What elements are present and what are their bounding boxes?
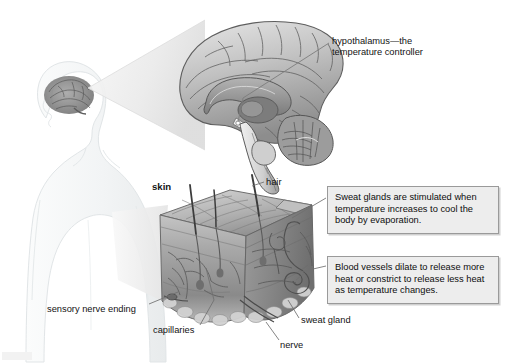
- label-hypothalamus-line2: temperature controller: [332, 47, 423, 57]
- label-nerve: nerve: [280, 340, 303, 351]
- label-sensory-nerve-ending: sensory nerve ending: [47, 304, 136, 315]
- page-artifact: [2, 352, 32, 360]
- callout-blood-vessels-text: Blood vessels dilate to release more hea…: [335, 262, 484, 295]
- label-hypothalamus: hypothalamus—the temperature controller: [332, 36, 472, 58]
- large-brain-illustration: [180, 22, 343, 194]
- skin-block-illustration: [160, 175, 314, 326]
- callout-sweat-glands: Sweat glands are stimulated when tempera…: [327, 186, 499, 234]
- label-capillaries: capillaries: [153, 325, 194, 336]
- callout-blood-vessels: Blood vessels dilate to release more hea…: [327, 256, 499, 304]
- leader-line-nerve: [266, 322, 279, 340]
- label-hair: hair: [266, 177, 282, 188]
- anatomy-figure: hypothalamus—the temperature controller …: [0, 0, 515, 363]
- small-brain-illustration: [44, 76, 94, 114]
- label-hypothalamus-line1: hypothalamus—the: [332, 36, 412, 46]
- callout-sweat-glands-text: Sweat glands are stimulated when tempera…: [335, 192, 477, 225]
- label-skin: skin: [152, 181, 171, 192]
- label-sweat-gland: sweat gland: [301, 315, 351, 326]
